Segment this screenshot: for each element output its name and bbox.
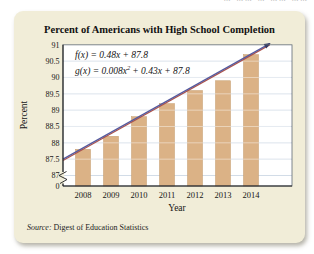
y-tick-label: 87: [52, 171, 60, 180]
y-tick-label: 88: [52, 139, 60, 148]
formula-g: g(x) = 0.008x2+ 0.43x + 87.8: [75, 64, 190, 77]
bar-2011: [160, 104, 175, 186]
y-tick-label: 90.5: [46, 57, 60, 66]
y-tick-label: 89.5: [46, 90, 60, 99]
bar-2014: [244, 55, 259, 186]
bar-2010: [132, 117, 147, 186]
y-axis-title: Percent: [19, 100, 29, 129]
x-tick-label: 2009: [103, 190, 120, 200]
x-tick-label: 2014: [243, 190, 261, 200]
x-axis-title: Year: [168, 203, 186, 213]
completion-bar-chart: f(x) = 0.48x + 87.8 g(x) = 0.008x2+ 0.43…: [0, 0, 314, 254]
figure-stage: m mm m mm mm Percent of Americans with H…: [0, 0, 314, 254]
y-tick-label: 91: [52, 41, 60, 50]
origin-label: 0: [56, 182, 60, 191]
formula-f: f(x) = 0.48x + 87.8: [75, 50, 148, 61]
formula-g-suffix: + 0.43x + 87.8: [132, 66, 190, 76]
y-tick-label: 87.5: [46, 155, 60, 164]
y-tick-label: 90: [52, 73, 60, 82]
y-tick-label: 88.5: [46, 122, 60, 131]
x-tick-label: 2008: [75, 190, 92, 200]
bar-2008: [76, 149, 91, 186]
y-tick-label: 89: [52, 106, 60, 115]
bar-2012: [188, 91, 203, 186]
bar-2009: [104, 136, 119, 186]
formula-g-prefix: g(x) = 0.008x: [75, 66, 128, 77]
x-tick-label: 2011: [159, 190, 176, 200]
x-tick-label: 2012: [187, 190, 204, 200]
x-tick-label: 2013: [215, 190, 232, 200]
x-tick-label: 2010: [131, 190, 148, 200]
bar-2013: [216, 81, 231, 186]
